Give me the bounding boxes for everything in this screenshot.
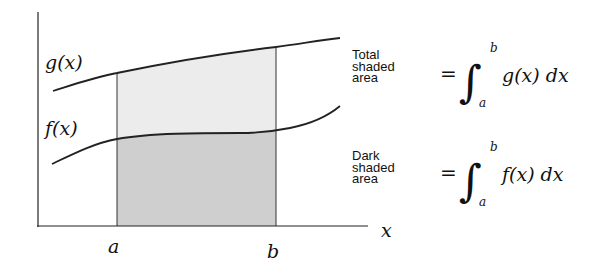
upper-limit: b xyxy=(490,41,498,55)
equals-sign: = xyxy=(440,161,457,185)
integrand: f(x) dx xyxy=(500,163,564,185)
b-tick-label: b xyxy=(267,240,279,262)
total-area-equation: Total shaded area = ∫ b a g(x) dx xyxy=(352,41,569,110)
a-tick-label: a xyxy=(108,235,119,257)
dark-area-desc-line-3: area xyxy=(352,171,379,186)
equals-sign: = xyxy=(440,62,457,86)
upper-limit: b xyxy=(490,140,498,154)
total-area-desc-line-3: area xyxy=(352,70,379,85)
f-curve-label: f(x) xyxy=(43,117,78,139)
x-axis-label: x xyxy=(381,219,392,241)
lower-limit: a xyxy=(479,96,486,110)
integrand: g(x) dx xyxy=(502,64,569,86)
area-between-curves-diagram: g(x) f(x) x a b Total shaded area = ∫ b … xyxy=(0,0,608,263)
dark-area-equation: Dark shaded area = ∫ b a f(x) dx xyxy=(352,140,564,209)
dark-shaded-region xyxy=(117,130,276,226)
lower-limit: a xyxy=(479,195,486,209)
g-curve-label: g(x) xyxy=(45,51,83,73)
